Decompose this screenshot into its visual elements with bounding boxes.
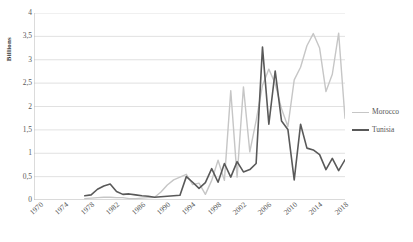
x-tick-label: 2010 [282, 200, 299, 217]
x-axis-tick-labels: 1970197419781982198619901994199820022006… [34, 200, 345, 242]
y-tick-label: 4 [8, 9, 32, 17]
x-tick-label: 2018 [332, 200, 349, 217]
y-axis-tick-labels: 00,511,522,533,54 [4, 0, 32, 242]
x-tick-label: 1982 [104, 200, 121, 217]
plot-svg [34, 13, 345, 200]
legend-swatch-icon [352, 112, 369, 113]
legend-label: Morocco [372, 108, 399, 116]
legend-label: Tunisia [372, 126, 394, 134]
x-tick-label: 1994 [180, 200, 197, 217]
x-tick-label: 1978 [79, 200, 96, 217]
series-line-tunisia [85, 47, 345, 197]
x-tick-label: 1990 [155, 200, 172, 217]
line-chart: Billions 00,511,522,533,54 1970197419781… [0, 0, 413, 242]
y-tick-label: 0,5 [8, 173, 32, 181]
x-tick-label: 1998 [206, 200, 223, 217]
legend: MoroccoTunisia [352, 103, 412, 139]
plot-area [34, 13, 345, 200]
x-tick-label: 2002 [231, 200, 248, 217]
y-tick-label: 2 [8, 103, 32, 111]
x-tick-label: 1986 [129, 200, 146, 217]
y-tick-label: 3 [8, 56, 32, 64]
legend-swatch-icon [352, 129, 369, 131]
y-tick-label: 1,5 [8, 126, 32, 134]
legend-item[interactable]: Morocco [352, 103, 412, 121]
y-tick-label: 0 [8, 196, 32, 204]
x-tick-label: 2014 [307, 200, 324, 217]
y-tick-label: 3,5 [8, 33, 32, 41]
y-tick-label: 1 [8, 150, 32, 158]
x-tick-label: 1974 [53, 200, 70, 217]
y-tick-label: 2,5 [8, 79, 32, 87]
x-tick-label: 2006 [256, 200, 273, 217]
legend-item[interactable]: Tunisia [352, 121, 412, 139]
